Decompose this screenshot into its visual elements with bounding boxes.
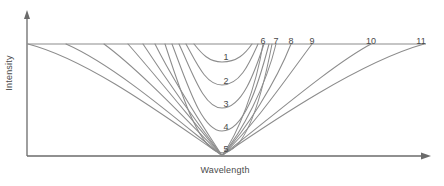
curve-label-7: 7 [269, 36, 283, 46]
curve-label-5: 5 [219, 144, 233, 154]
y-axis-label: Intensity [4, 42, 14, 104]
curve-label-1: 1 [219, 52, 233, 62]
plot-background [0, 0, 444, 186]
curve-label-10: 10 [362, 36, 380, 46]
curve-label-3: 3 [219, 99, 233, 109]
x-axis-label: Wavelength [185, 165, 265, 175]
curve-label-6: 6 [256, 36, 270, 46]
curve-label-11: 11 [412, 36, 430, 46]
curve-label-4: 4 [219, 122, 233, 132]
curve-label-2: 2 [219, 76, 233, 86]
curve-label-8: 8 [284, 36, 298, 46]
spectral-curve-figure [0, 0, 444, 186]
curve-label-9: 9 [305, 36, 319, 46]
